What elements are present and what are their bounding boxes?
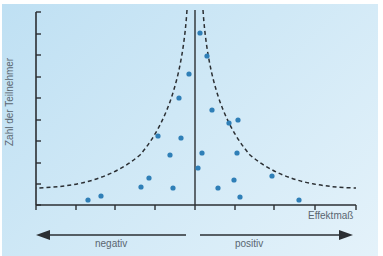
data-point: [209, 107, 214, 112]
data-point: [199, 150, 204, 155]
funnel-left-curve: [36, 10, 187, 188]
data-point: [98, 193, 103, 198]
data-point: [195, 165, 200, 170]
y-axis-label-text: Zahl der Teilnehmer: [4, 58, 15, 146]
funnel-right-curve: [203, 10, 356, 188]
data-point: [85, 197, 90, 202]
positive-label: positiv: [235, 238, 263, 249]
data-point: [146, 175, 151, 180]
data-point: [204, 53, 209, 58]
data-point: [197, 30, 202, 35]
x-axis-label: Effektmaß: [308, 210, 353, 221]
positive-arrowhead-icon: [339, 230, 353, 240]
data-point: [226, 120, 231, 125]
data-point: [167, 152, 172, 157]
data-point: [138, 184, 143, 189]
negative-label: negativ: [95, 238, 127, 249]
data-point: [170, 185, 175, 190]
negative-arrowhead-icon: [36, 230, 50, 240]
data-point: [176, 95, 181, 100]
data-point: [237, 194, 242, 199]
data-point: [231, 177, 236, 182]
data-points: [85, 30, 301, 202]
data-point: [296, 197, 301, 202]
data-point: [269, 173, 274, 178]
data-point: [186, 71, 191, 76]
data-point: [155, 133, 160, 138]
data-point: [235, 117, 240, 122]
data-point: [234, 150, 239, 155]
data-point: [215, 185, 220, 190]
data-point: [178, 135, 183, 140]
